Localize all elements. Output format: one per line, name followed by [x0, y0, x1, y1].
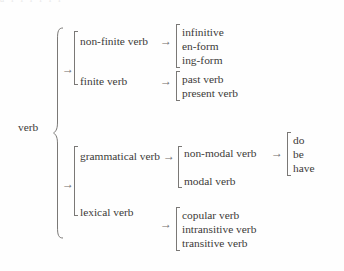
bracket-finite-forms	[176, 71, 180, 101]
leaf-be: be	[293, 147, 315, 161]
leaf-present-verb: present verb	[182, 86, 238, 100]
arrow-finite-to-forms: →	[160, 75, 172, 87]
cut-off-header-text: a i i i i i i	[0, 0, 344, 3]
leaf-intransitive-verb: intransitive verb	[182, 222, 256, 236]
leaf-en-form: en-form	[182, 39, 224, 53]
node-lexical-verb: lexical verb	[80, 206, 133, 220]
stack-non-modal-members: do be have	[293, 133, 315, 176]
arrow-lexical-to-kinds: →	[160, 218, 172, 230]
leaf-past-verb: past verb	[182, 72, 238, 86]
node-non-finite-verb: non-finite verb	[80, 35, 148, 49]
arrow-root-to-group-a: →	[62, 63, 74, 75]
bracket-non-modal-members	[287, 132, 291, 176]
arrow-root-to-group-b: →	[62, 178, 74, 190]
leaf-do: do	[293, 133, 315, 147]
bracket-group-b	[74, 146, 78, 216]
node-modal-verb: modal verb	[184, 175, 236, 189]
bracket-non-finite-forms	[176, 24, 180, 68]
arrow-non-modal-to-members: →	[271, 147, 283, 159]
arrow-non-finite-to-forms: →	[160, 35, 172, 47]
leaf-infinitive: infinitive	[182, 25, 224, 39]
bracket-grammatical-kinds	[178, 146, 182, 188]
root-brace	[53, 27, 65, 239]
bracket-lexical-kinds	[176, 207, 180, 251]
root-node-verb: verb	[18, 121, 38, 135]
leaf-have: have	[293, 161, 315, 175]
leaf-transitive-verb: transitive verb	[182, 236, 256, 250]
stack-lexical-kinds: copular verb intransitive verb transitiv…	[182, 208, 256, 251]
figure-canvas: a i i i i i i verb → non-finite verb fin…	[0, 0, 344, 271]
bracket-group-a	[74, 31, 78, 85]
node-finite-verb: finite verb	[80, 75, 127, 89]
stack-non-finite-forms: infinitive en-form ing-form	[182, 25, 224, 68]
arrow-grammatical-to-kinds: →	[163, 150, 175, 162]
leaf-ing-form: ing-form	[182, 53, 224, 67]
stack-finite-forms: past verb present verb	[182, 72, 238, 100]
node-non-modal-verb: non-modal verb	[184, 147, 256, 161]
leaf-copular-verb: copular verb	[182, 208, 256, 222]
node-grammatical-verb: grammatical verb	[80, 150, 160, 164]
